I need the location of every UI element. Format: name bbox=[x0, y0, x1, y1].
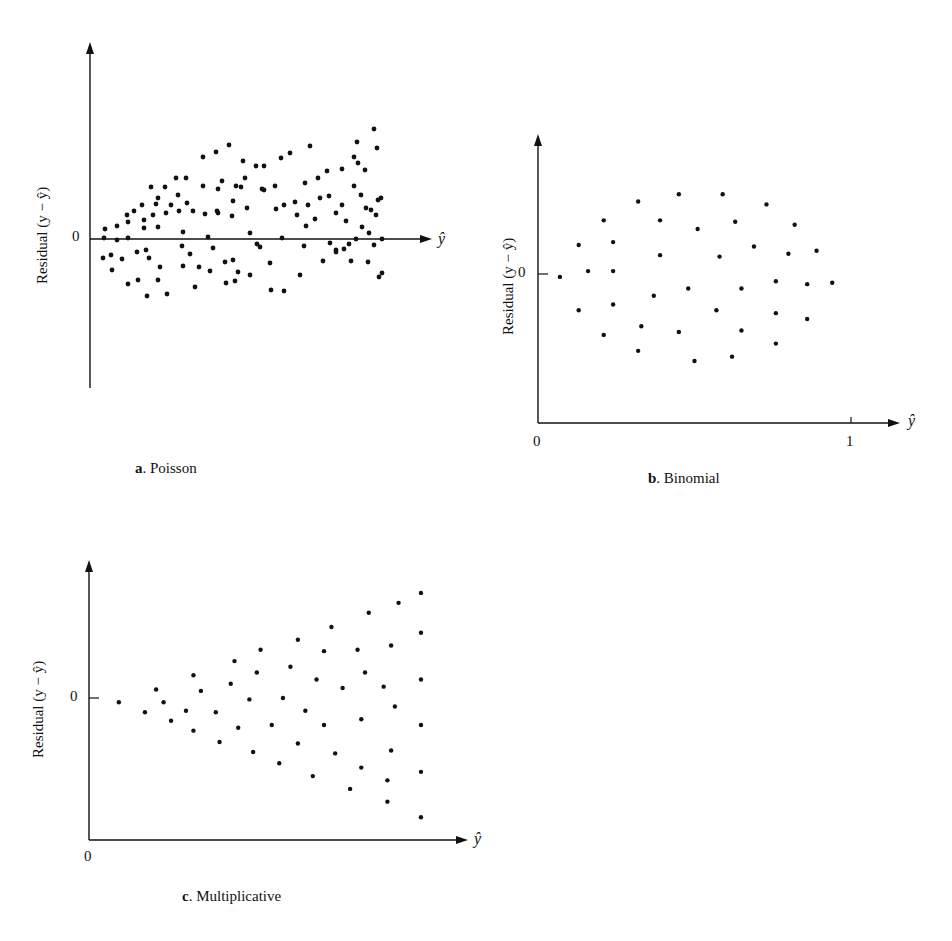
binomial-x-origin-label: 0 bbox=[533, 433, 541, 450]
data-point bbox=[232, 659, 236, 663]
data-point bbox=[251, 750, 255, 754]
data-point bbox=[419, 630, 423, 634]
data-point bbox=[161, 700, 165, 704]
multiplicative-plot bbox=[0, 0, 520, 941]
data-point bbox=[303, 709, 307, 713]
data-point bbox=[677, 330, 681, 334]
data-point bbox=[191, 728, 195, 732]
data-point bbox=[184, 709, 188, 713]
data-point bbox=[658, 218, 662, 222]
data-point bbox=[636, 349, 640, 353]
data-point bbox=[419, 677, 423, 681]
data-point bbox=[329, 625, 333, 629]
data-point bbox=[143, 710, 147, 714]
data-point bbox=[686, 286, 690, 290]
data-point bbox=[714, 308, 718, 312]
data-point bbox=[359, 765, 363, 769]
data-point bbox=[154, 687, 158, 691]
data-point bbox=[199, 689, 203, 693]
data-point bbox=[695, 227, 699, 231]
data-point bbox=[277, 761, 281, 765]
data-point bbox=[385, 778, 389, 782]
data-point bbox=[717, 254, 721, 258]
data-point bbox=[389, 643, 393, 647]
data-point bbox=[314, 677, 318, 681]
data-point bbox=[639, 324, 643, 328]
data-point bbox=[611, 240, 615, 244]
data-point bbox=[117, 700, 121, 704]
data-point bbox=[419, 815, 423, 819]
data-point bbox=[739, 286, 743, 290]
data-point bbox=[752, 244, 756, 248]
data-point bbox=[786, 252, 790, 256]
data-point bbox=[296, 741, 300, 745]
data-point bbox=[258, 648, 262, 652]
data-point bbox=[602, 218, 606, 222]
data-point bbox=[419, 770, 423, 774]
data-point bbox=[830, 281, 834, 285]
multiplicative-caption: c. Multiplicative bbox=[182, 888, 281, 905]
multiplicative-y-axis-label: Residual (y − ŷ) bbox=[30, 661, 47, 758]
data-point bbox=[602, 333, 606, 337]
data-point bbox=[385, 799, 389, 803]
data-point bbox=[363, 670, 367, 674]
data-point bbox=[396, 601, 400, 605]
data-point bbox=[730, 354, 734, 358]
data-point bbox=[419, 591, 423, 595]
data-point bbox=[288, 665, 292, 669]
data-point bbox=[340, 686, 344, 690]
multiplicative-zero-label: 0 bbox=[70, 688, 78, 705]
binomial-x-one-label: 1 bbox=[846, 433, 854, 450]
data-point bbox=[169, 719, 173, 723]
data-point bbox=[367, 611, 371, 615]
data-point bbox=[270, 723, 274, 727]
data-point bbox=[677, 192, 681, 196]
data-point bbox=[692, 359, 696, 363]
data-point bbox=[355, 648, 359, 652]
data-point bbox=[217, 740, 221, 744]
data-point bbox=[393, 704, 397, 708]
multiplicative-x-origin-label: 0 bbox=[84, 848, 92, 865]
data-point bbox=[333, 751, 337, 755]
data-point bbox=[720, 192, 724, 196]
data-point bbox=[805, 282, 809, 286]
data-point bbox=[586, 269, 590, 273]
data-point bbox=[764, 202, 768, 206]
data-point bbox=[611, 269, 615, 273]
binomial-x-axis-label: ŷ bbox=[908, 412, 915, 430]
data-point bbox=[247, 697, 251, 701]
data-point bbox=[296, 638, 300, 642]
data-point bbox=[359, 717, 363, 721]
data-point bbox=[576, 308, 580, 312]
binomial-caption: b. Binomial bbox=[648, 470, 720, 487]
multiplicative-x-axis-label: ŷ bbox=[474, 830, 481, 848]
data-point bbox=[658, 253, 662, 257]
data-point bbox=[255, 670, 259, 674]
data-point bbox=[792, 223, 796, 227]
data-point bbox=[805, 317, 809, 321]
data-point bbox=[322, 723, 326, 727]
data-point bbox=[281, 696, 285, 700]
data-point bbox=[191, 673, 195, 677]
data-point bbox=[229, 682, 233, 686]
data-point bbox=[558, 275, 562, 279]
data-point bbox=[311, 774, 315, 778]
data-point bbox=[236, 726, 240, 730]
panel-multiplicative: 0 0 ŷ Residual (y − ŷ) c. Multiplicative bbox=[0, 0, 520, 941]
data-point bbox=[739, 328, 743, 332]
data-point bbox=[389, 748, 393, 752]
data-point bbox=[419, 723, 423, 727]
data-point bbox=[636, 199, 640, 203]
data-point bbox=[733, 220, 737, 224]
data-point bbox=[348, 787, 352, 791]
data-point bbox=[774, 279, 778, 283]
data-point bbox=[576, 243, 580, 247]
data-point bbox=[322, 649, 326, 653]
data-point bbox=[652, 294, 656, 298]
data-point bbox=[214, 710, 218, 714]
data-point bbox=[381, 684, 385, 688]
data-point bbox=[774, 341, 778, 345]
data-point bbox=[814, 249, 818, 253]
data-point bbox=[774, 311, 778, 315]
data-point bbox=[611, 302, 615, 306]
